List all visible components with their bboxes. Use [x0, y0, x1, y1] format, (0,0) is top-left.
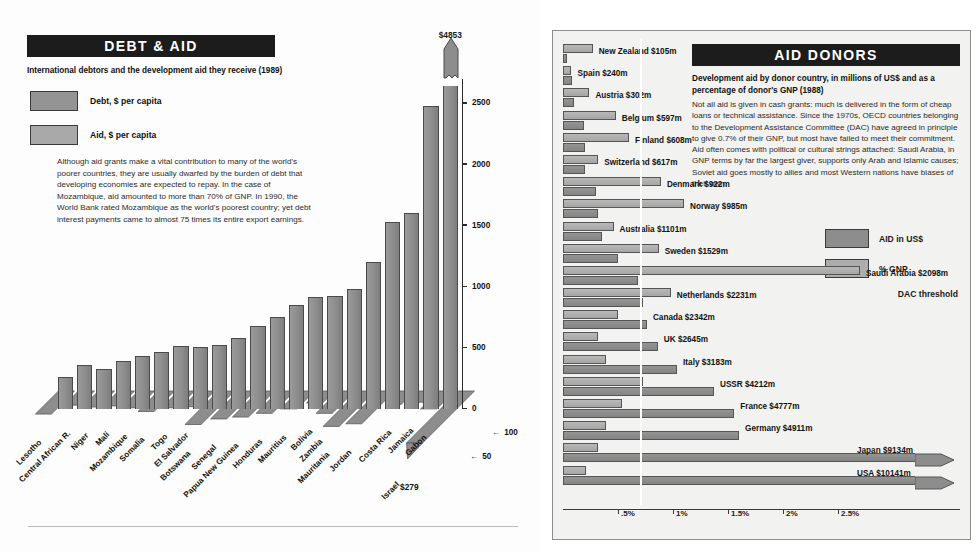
- donor-label-denmark: Denmark $922m: [667, 180, 730, 189]
- donor-label-austria: Austria $302m: [595, 91, 651, 100]
- aid-usd-bar: [563, 254, 618, 263]
- donor-label-new-zealand: New Zealand $105m: [599, 47, 677, 56]
- aid-usd-bar: [563, 121, 584, 130]
- donor-row: Norway $985m: [563, 198, 963, 220]
- pct-tick-label: .5%: [621, 509, 635, 518]
- aid-usd-bar: [563, 365, 677, 374]
- aid-donors-panel: AID DONORS Development aid by donor coun…: [552, 30, 971, 540]
- gnp-percent-bar: [563, 66, 571, 75]
- gnp-percent-bar: [563, 377, 643, 386]
- gnp-percent-bar: [563, 421, 606, 430]
- donor-row: Canada $2342m: [563, 309, 963, 331]
- gnp-percent-bar: [563, 443, 598, 452]
- debt-and-aid-panel: DEBT & AID International debtors and the…: [0, 0, 540, 552]
- gnp-percent-bar: [563, 199, 684, 208]
- aid-usd-bar: [563, 342, 658, 351]
- donor-label-uk: UK $2645m: [664, 335, 708, 344]
- donor-row: Germany $4911m: [563, 420, 963, 442]
- gnp-percent-bar: [563, 222, 614, 231]
- gnp-percent-bar: [563, 177, 661, 186]
- aid-usd-bar: [563, 298, 643, 307]
- aid-bar-overflow-arrow: [915, 476, 955, 485]
- pct-tick-1.5%: 1.5%: [728, 509, 729, 514]
- donor-row: USSR $4212m: [563, 376, 963, 398]
- donor-label-italy: Italy $3183m: [683, 358, 732, 367]
- pct-tick-label: 2%: [786, 509, 798, 518]
- aid-usd-bar: [563, 387, 714, 396]
- donor-row: USA $10141m: [563, 465, 963, 487]
- gnp-percent-bar: [563, 155, 598, 164]
- donor-row: Denmark $922m: [563, 176, 963, 198]
- gnp-percent-bar: [563, 266, 860, 275]
- donor-row: Finland $608m: [563, 132, 963, 154]
- donor-row: Sweden $1529m: [563, 243, 963, 265]
- donor-label-norway: Norway $985m: [690, 202, 747, 211]
- israel-aid-value-label: $279: [400, 482, 419, 492]
- donor-row: Australia $1101m: [563, 221, 963, 243]
- donor-label-finland: Finland $608m: [635, 136, 692, 145]
- gnp-percent-bar: [563, 244, 659, 253]
- donor-label-france: France $4777m: [740, 402, 799, 411]
- donor-row: Switzerland $617m: [563, 154, 963, 176]
- aid-usd-bar: [563, 320, 647, 329]
- gnp-percent-bar: [563, 399, 622, 408]
- gnp-percent-bar: [563, 355, 606, 364]
- donor-label-spain: Spain $240m: [578, 69, 628, 78]
- donor-row: New Zealand $105m: [563, 43, 963, 65]
- aid-usd-bar: [563, 431, 739, 440]
- aid-usd-bar: [563, 54, 567, 63]
- donor-row: UK $2645m: [563, 331, 963, 353]
- donor-label-belgium: Belgium $597m: [622, 114, 682, 123]
- gnp-percent-bar: [563, 332, 598, 341]
- aid-usd-bar: [563, 209, 598, 218]
- country-label-niger: Niger: [69, 431, 90, 452]
- country-label-jordan: Jordan: [328, 448, 354, 474]
- pct-tick-label: 2.5%: [841, 509, 859, 518]
- gnp-percent-bar: [563, 111, 616, 120]
- aid-usd-bar: [563, 143, 585, 152]
- donor-label-germany: Germany $4911m: [745, 424, 812, 433]
- pct-tick-mark: [728, 509, 729, 514]
- aid-usd-bar: [563, 232, 602, 241]
- donor-row: Saudi Arabia $2098m: [563, 265, 963, 287]
- pct-tick-.5%: .5%: [618, 509, 619, 514]
- aid-usd-bar: [563, 409, 734, 418]
- donor-label-netherlands: Netherlands $2231m: [677, 291, 757, 300]
- gnp-percent-bar: [563, 310, 618, 319]
- percent-gnp-axis: .5%1%1.5%2%2.5%: [563, 509, 960, 525]
- donor-row: Netherlands $2231m: [563, 287, 963, 309]
- donor-label-sweden: Sweden $1529m: [665, 247, 728, 256]
- aid-usd-bar: [563, 276, 638, 285]
- pct-tick-mark: [838, 509, 839, 514]
- donor-label-australia: Australia $1101m: [620, 225, 687, 234]
- aid-axis-tick-50: ←50: [470, 452, 491, 461]
- donor-row: Spain $240m: [563, 65, 963, 87]
- pct-tick-mark: [618, 509, 619, 514]
- donor-label-canada: Canada $2342m: [653, 313, 715, 322]
- aid-usd-bar: [563, 165, 585, 174]
- country-label-mauritius: Mauritius: [256, 433, 288, 465]
- pct-tick-2%: 2%: [783, 509, 784, 514]
- aid-axis-tick-100: ←100: [492, 428, 518, 437]
- baseline-rule: [28, 526, 518, 527]
- aid-usd-bar: [563, 187, 596, 196]
- donor-row: France $4777m: [563, 398, 963, 420]
- aid-usd-bar: [563, 98, 574, 107]
- donor-row-group: New Zealand $105mSpain $240mAustria $302…: [563, 43, 963, 509]
- donor-row: Belgium $597m: [563, 110, 963, 132]
- debt-category-labels: LesothoCentral African R.NigerMaliMozamb…: [0, 0, 540, 552]
- pct-tick-1%: 1%: [673, 509, 674, 514]
- gnp-percent-bar: [563, 466, 586, 475]
- gnp-percent-bar: [563, 288, 671, 297]
- dac-threshold-line: [640, 39, 642, 505]
- gnp-percent-bar: [563, 44, 593, 53]
- gnp-percent-bar: [563, 88, 589, 97]
- donor-label-saudi-arabia: Saudi Arabia $2098m: [866, 269, 948, 278]
- donor-label-ussr: USSR $4212m: [720, 380, 775, 389]
- donor-row: Japan $9134m: [563, 442, 963, 464]
- aid-usd-bar: [563, 76, 572, 85]
- country-label-israel: Israel: [380, 480, 402, 502]
- pct-tick-label: 1%: [676, 509, 688, 518]
- gnp-percent-bar: [563, 133, 629, 142]
- pct-tick-label: 1.5%: [731, 509, 749, 518]
